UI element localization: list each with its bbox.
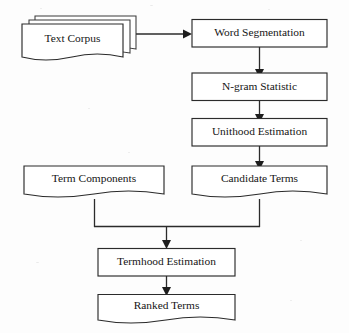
ngram-statistic-label: N-gram Statistic xyxy=(222,80,297,92)
term-components-label: Term Components xyxy=(52,172,137,184)
flowchart-diagram: Text Corpus Word Segmentation N-gram Sta… xyxy=(0,0,349,333)
termhood-estimation-label: Termhood Estimation xyxy=(117,255,216,267)
candidate-terms-label: Candidate Terms xyxy=(221,172,299,184)
node-text-corpus[interactable]: Text Corpus xyxy=(22,16,136,60)
word-segmentation-label: Word Segmentation xyxy=(214,26,305,38)
flowchart-canvas: Text Corpus Word Segmentation N-gram Sta… xyxy=(0,0,349,333)
edge-text-corpus-to-word-segmentation xyxy=(136,30,192,39)
edge-merge-to-termhood-estimation xyxy=(94,199,260,249)
node-term-components[interactable]: Term Components xyxy=(24,166,164,197)
node-candidate-terms[interactable]: Candidate Terms xyxy=(192,166,327,197)
node-ngram-statistic[interactable]: N-gram Statistic xyxy=(192,73,327,101)
unithood-estimation-label: Unithood Estimation xyxy=(212,125,308,137)
node-ranked-terms[interactable]: Ranked Terms xyxy=(98,295,235,324)
node-unithood-estimation[interactable]: Unithood Estimation xyxy=(192,119,327,147)
node-termhood-estimation[interactable]: Termhood Estimation xyxy=(98,249,235,277)
node-word-segmentation[interactable]: Word Segmentation xyxy=(192,20,327,48)
text-corpus-label: Text Corpus xyxy=(45,32,101,44)
edge-termhood-estimation-to-ranked-terms xyxy=(162,276,171,296)
ranked-terms-label: Ranked Terms xyxy=(134,299,200,311)
